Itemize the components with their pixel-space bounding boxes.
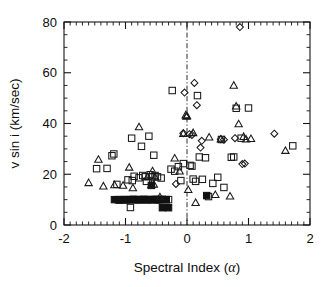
data-point-open-triangle bbox=[226, 193, 233, 200]
data-point-open-square bbox=[146, 133, 152, 139]
data-point-open-diamond bbox=[191, 79, 198, 86]
data-point-open-triangle bbox=[171, 155, 178, 162]
x-tick-label: 0 bbox=[183, 231, 190, 246]
data-point-open-diamond bbox=[271, 130, 278, 137]
data-point-open-triangle bbox=[192, 199, 199, 206]
data-point-open-square bbox=[127, 204, 133, 210]
data-point-open-square bbox=[245, 105, 251, 111]
data-point-open-square bbox=[111, 151, 117, 157]
data-point-open-square bbox=[215, 174, 221, 180]
x-tick-label: -1 bbox=[120, 231, 132, 246]
y-tick-label: 60 bbox=[43, 65, 57, 80]
data-point-open-triangle bbox=[135, 123, 142, 130]
data-point-filled-square bbox=[165, 205, 171, 211]
data-point-open-triangle bbox=[282, 147, 289, 154]
data-point-open-square bbox=[210, 180, 216, 186]
y-tick-label: 0 bbox=[50, 218, 57, 233]
data-point-filled-square bbox=[116, 197, 122, 203]
data-point-open-square bbox=[93, 165, 99, 171]
x-tick-label: 2 bbox=[306, 231, 313, 246]
y-tick-label: 40 bbox=[43, 116, 57, 131]
data-point-open-square bbox=[290, 143, 296, 149]
data-point-open-square bbox=[104, 165, 110, 171]
y-tick-label: 80 bbox=[43, 15, 57, 30]
data-point-open-triangle bbox=[212, 191, 219, 198]
data-point-open-triangle bbox=[205, 133, 212, 140]
figure-container: -2-1012020406080v sin i (km/sec)Spectral… bbox=[0, 0, 336, 287]
x-tick-label: -2 bbox=[58, 231, 70, 246]
data-point-open-triangle bbox=[111, 181, 118, 188]
data-point-open-triangle bbox=[95, 156, 102, 163]
data-point-open-triangle bbox=[129, 184, 136, 191]
data-point-open-square bbox=[202, 155, 208, 161]
data-point-filled-square bbox=[159, 205, 165, 211]
data-point-open-diamond bbox=[198, 137, 205, 144]
data-point-open-square bbox=[228, 154, 234, 160]
data-point-open-triangle bbox=[180, 130, 187, 137]
y-tick-label: 20 bbox=[43, 167, 57, 182]
axis-labels-group: -2-1012020406080v sin i (km/sec)Spectral… bbox=[7, 15, 314, 276]
data-point-filled-square bbox=[203, 192, 209, 198]
data-markers-group bbox=[85, 24, 296, 211]
data-point-open-diamond bbox=[193, 102, 200, 109]
data-point-open-triangle bbox=[230, 82, 237, 89]
data-point-open-triangle bbox=[247, 135, 254, 142]
data-point-open-triangle bbox=[100, 182, 107, 189]
data-point-open-square bbox=[169, 87, 175, 93]
data-point-open-triangle bbox=[235, 120, 242, 127]
data-point-open-triangle bbox=[185, 186, 192, 193]
x-axis-title: Spectral Index (α) bbox=[134, 260, 240, 275]
data-point-open-square bbox=[194, 92, 200, 98]
y-axis-title: v sin i (km/sec) bbox=[7, 78, 22, 168]
data-point-open-square bbox=[231, 154, 237, 160]
data-point-open-square bbox=[128, 135, 134, 141]
x-tick-label: 1 bbox=[245, 231, 252, 246]
data-point-open-square bbox=[151, 152, 157, 158]
data-point-open-diamond bbox=[197, 144, 204, 151]
data-point-open-square bbox=[109, 153, 115, 159]
data-point-open-triangle bbox=[233, 102, 240, 109]
data-point-open-square bbox=[138, 143, 144, 149]
data-point-open-square bbox=[196, 154, 202, 160]
data-point-open-square bbox=[199, 176, 205, 182]
data-point-open-square bbox=[190, 176, 196, 182]
data-point-open-triangle bbox=[125, 164, 132, 171]
data-point-open-square bbox=[192, 178, 198, 184]
scatter-plot: -2-1012020406080v sin i (km/sec)Spectral… bbox=[0, 0, 336, 287]
data-point-open-triangle bbox=[85, 179, 92, 186]
data-point-open-square bbox=[221, 184, 227, 190]
